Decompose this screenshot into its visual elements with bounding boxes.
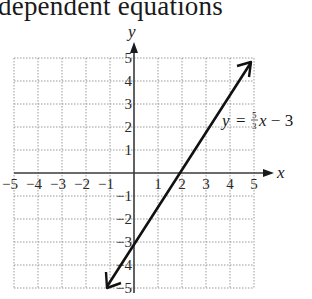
- y-tick-label: 5: [125, 50, 133, 66]
- equation-rest: x − 3: [258, 111, 293, 130]
- x-tick-label: −5: [2, 176, 18, 192]
- x-tick-label: −3: [50, 176, 66, 192]
- y-axis-label: y: [126, 22, 136, 41]
- equation-numerator: 5: [252, 110, 257, 120]
- x-tick-label: 1: [154, 176, 162, 192]
- equation-equals: =: [236, 111, 246, 130]
- x-tick-label: 4: [226, 176, 234, 192]
- y-tick-label: −3: [116, 234, 132, 250]
- x-tick-label: 3: [202, 176, 210, 192]
- y-tick-label: 2: [125, 119, 133, 135]
- equation-y: y: [220, 111, 230, 130]
- x-tick-label: −2: [74, 176, 90, 192]
- y-tick-label: 4: [125, 73, 133, 89]
- x-axis-arrow-icon: [263, 169, 274, 177]
- x-tick-label: −4: [26, 176, 42, 192]
- y-tick-label: −2: [116, 211, 132, 227]
- y-tick-label: −1: [116, 188, 132, 204]
- coordinate-plane: x y −5−4−3−2−112345 54321−1−2−3−4−5 y = …: [0, 0, 312, 299]
- y-tick-label: 1: [125, 142, 133, 158]
- equation-label: y = 5 3 x − 3: [220, 110, 293, 131]
- y-tick-label: −5: [116, 280, 132, 296]
- x-tick-label: 2: [178, 176, 186, 192]
- y-tick-label: 3: [125, 96, 133, 112]
- x-axis-label: x: [276, 163, 285, 182]
- x-tick-label: −1: [98, 176, 114, 192]
- equation-denominator: 3: [252, 121, 257, 131]
- x-tick-label: 5: [250, 176, 258, 192]
